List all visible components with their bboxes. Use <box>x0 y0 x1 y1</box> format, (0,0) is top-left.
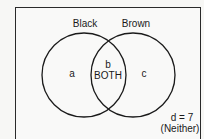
black-set-label: Black <box>73 19 97 29</box>
neither-label: (Neither) <box>161 124 200 134</box>
region-a-label: a <box>69 69 75 79</box>
region-b-label: b <box>105 60 111 70</box>
both-label: BOTH <box>94 71 122 81</box>
region-d-label: d = 7 <box>171 113 194 123</box>
brown-set-label: Brown <box>122 19 150 29</box>
region-c-label: c <box>142 69 147 79</box>
